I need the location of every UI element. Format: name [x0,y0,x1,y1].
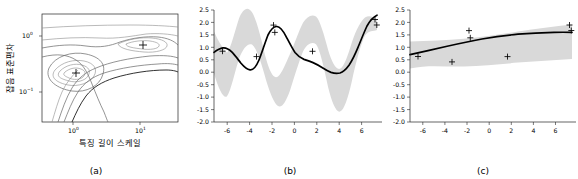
panel-c-ytick-1: -1.5 [393,106,405,113]
panel-c-confidence-band [410,25,572,69]
panel-c-caption: (c) [388,166,578,176]
panel-a-ytick-1: 10−1 [19,87,34,95]
panel-b-xtick-0: -6 [224,127,230,134]
panel-b-ytick-9: 2.5 [199,6,209,13]
panel-c-xtick-2: -2 [464,127,470,134]
panel-c-xtick-0: -6 [420,127,426,134]
panel-a-axes [42,14,178,122]
panel-b-yticks: 2.5 2.0 1.5 1.0 0.5 0.0 -0.5 -1.0 -1.5 -… [197,6,214,125]
panel-c-xtick-3: 0 [487,127,491,134]
panel-c-ytick-2: -1.0 [393,93,405,100]
panel-a-xtick-0: 100 [68,126,79,134]
panel-a-yticks: 100 10−1 [19,31,42,95]
panel-b-xtick-5: 4 [337,127,341,134]
panel-b-ytick-8: 2.0 [199,19,209,26]
panel-b-xtick-2: -2 [269,127,275,134]
panel-b-xtick-3: 0 [292,127,296,134]
panel-b-ytick-3: -0.5 [197,81,209,88]
panel-c-ytick-7: 1.5 [395,31,405,38]
panel-a-xticks: 100 101 [68,122,146,134]
panel-b-ytick-1: -1.5 [197,106,209,113]
panel-b-ytick-6: 1.0 [199,44,209,51]
panel-b-xticks: -6 -4 -2 0 2 4 6 [224,122,364,134]
panel-c-plot: 2.5 2.0 1.5 1.0 0.5 0.0 -0.5 -1.0 -1.5 -… [388,0,578,150]
panel-c-xtick-5: 4 [531,127,535,134]
panel-b-xtick-1: -4 [247,127,253,134]
panel-b-plot: 2.5 2.0 1.5 1.0 0.5 0.0 -0.5 -1.0 -1.5 -… [192,0,388,150]
panel-a-caption: (a) [0,166,192,176]
panel-c-ytick-9: 2.5 [395,6,405,13]
panel-a-xtick-1: 101 [135,126,146,134]
panel-a-xlabel: 특징 길이 스케일 [79,138,140,148]
panel-c-ytick-3: -0.5 [393,81,405,88]
panel-c-xtick-6: 6 [554,127,558,134]
panel-b-ytick-2: -1.0 [197,93,209,100]
panel-c-xtick-1: -4 [442,127,448,134]
panel-a: 100 101 100 10−1 특징 길이 스케일 잡음 표준편차 (a) [0,0,192,179]
panel-c: 2.5 2.0 1.5 1.0 0.5 0.0 -0.5 -1.0 -1.5 -… [388,0,578,179]
panel-b-ytick-7: 1.5 [199,31,209,38]
panel-c-ytick-0: -2.0 [393,118,405,125]
panel-c-ytick-4: 0.0 [395,68,405,75]
panel-a-plot: 100 101 100 10−1 특징 길이 스케일 잡음 표준편차 [0,0,192,150]
panel-c-ytick-6: 1.0 [395,44,405,51]
panel-b-xtick-6: 6 [360,127,364,134]
panel-b: 2.5 2.0 1.5 1.0 0.5 0.0 -0.5 -1.0 -1.5 -… [192,0,388,179]
panel-c-ytick-5: 0.5 [395,56,405,63]
panel-b-xtick-4: 2 [315,127,319,134]
panel-c-xticks: -6 -4 -2 0 2 4 6 [420,122,558,134]
panel-a-ylabel: 잡음 표준편차 [5,43,15,94]
panel-b-ytick-4: 0.0 [199,68,209,75]
figure-container: 100 101 100 10−1 특징 길이 스케일 잡음 표준편차 (a) [0,0,578,179]
panel-b-caption: (b) [192,166,388,176]
panel-a-ytick-0: 100 [22,31,33,39]
panel-c-yticks: 2.5 2.0 1.5 1.0 0.5 0.0 -0.5 -1.0 -1.5 -… [393,6,410,125]
data-point [272,29,278,35]
panel-c-xtick-4: 2 [509,127,513,134]
panel-b-ytick-0: -2.0 [197,118,209,125]
panel-b-ytick-5: 0.5 [199,56,209,63]
data-point [466,28,472,34]
data-point [310,48,316,54]
panel-c-ytick-8: 2.0 [395,19,405,26]
